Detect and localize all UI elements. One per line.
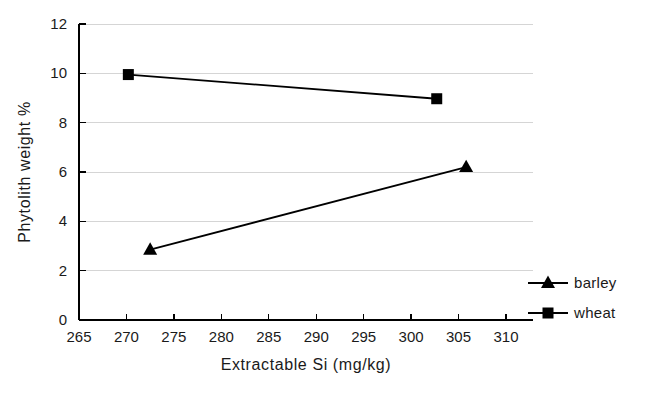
chart-background bbox=[0, 0, 663, 393]
legend-label-barley: barley bbox=[574, 274, 617, 291]
x-tick-label-290: 290 bbox=[304, 328, 329, 345]
y-tick-label-0: 0 bbox=[59, 311, 67, 328]
line-chart: 265270275280285290295300305310 024681012… bbox=[0, 0, 663, 393]
x-tick-label-275: 275 bbox=[161, 328, 186, 345]
data-point-wheat-1 bbox=[431, 93, 442, 104]
y-tick-label-12: 12 bbox=[50, 15, 67, 32]
x-tick-label-300: 300 bbox=[399, 328, 424, 345]
legend-marker-wheat bbox=[543, 308, 554, 319]
y-tick-label-8: 8 bbox=[59, 114, 67, 131]
x-tick-label-265: 265 bbox=[66, 328, 91, 345]
x-tick-label-310: 310 bbox=[493, 328, 518, 345]
x-tick-label-270: 270 bbox=[114, 328, 139, 345]
x-axis-title: Extractable Si (mg/kg) bbox=[221, 356, 392, 373]
chart-container: 265270275280285290295300305310 024681012… bbox=[0, 0, 663, 393]
y-axis-title: Phytolith weight % bbox=[16, 101, 33, 243]
y-tick-label-2: 2 bbox=[59, 262, 67, 279]
legend-label-wheat: wheat bbox=[573, 304, 616, 321]
x-tick-label-305: 305 bbox=[446, 328, 471, 345]
y-tick-label-6: 6 bbox=[59, 163, 67, 180]
y-tick-label-4: 4 bbox=[59, 212, 67, 229]
x-tick-label-285: 285 bbox=[256, 328, 281, 345]
data-point-wheat-0 bbox=[123, 69, 134, 80]
x-tick-label-295: 295 bbox=[351, 328, 376, 345]
x-tick-label-280: 280 bbox=[209, 328, 234, 345]
y-tick-label-10: 10 bbox=[50, 64, 67, 81]
